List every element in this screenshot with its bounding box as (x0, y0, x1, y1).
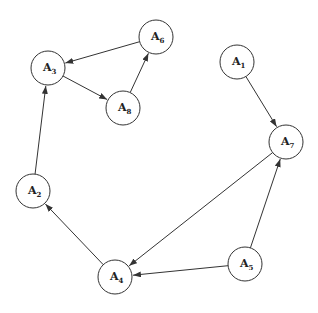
graph-canvas: A1A2A3A4A5A6A7A8 (0, 0, 318, 313)
node-subscript: 5 (249, 263, 254, 272)
node-a2: A2 (16, 174, 50, 208)
node-subscript: 3 (52, 67, 57, 76)
edge-a3-to-a8 (63, 76, 107, 100)
edge-a1-to-a7 (246, 76, 277, 126)
node-subscript: 1 (241, 61, 246, 70)
edge-a5-to-a4 (133, 266, 228, 276)
edge-a5-to-a7 (250, 159, 280, 248)
node-a6: A6 (139, 20, 173, 54)
nodes-layer: A1A2A3A4A5A6A7A8 (16, 20, 303, 294)
node-subscript: 6 (160, 36, 165, 45)
node-subscript: 7 (290, 141, 295, 150)
node-a5: A5 (228, 247, 262, 281)
edge-a4-to-a2 (45, 204, 103, 265)
node-subscript: 4 (119, 276, 124, 285)
node-a4: A4 (98, 260, 132, 294)
node-subscript: 2 (37, 190, 42, 199)
edge-a8-to-a6 (130, 53, 148, 92)
directed-graph: A1A2A3A4A5A6A7A8 (0, 0, 318, 313)
node-a8: A8 (106, 91, 140, 125)
node-subscript: 8 (127, 107, 132, 116)
edge-a2-to-a3 (35, 86, 46, 174)
node-a7: A7 (269, 125, 303, 159)
node-a3: A3 (31, 51, 65, 85)
edge-a6-to-a3 (65, 42, 139, 63)
node-a1: A1 (220, 45, 254, 79)
